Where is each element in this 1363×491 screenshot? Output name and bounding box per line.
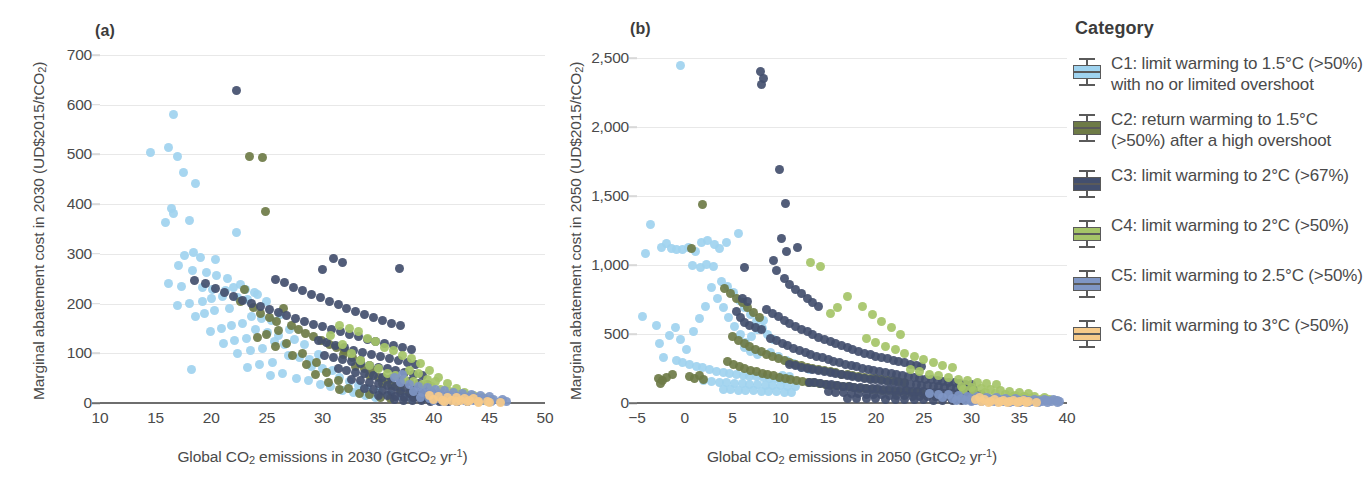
legend-title: Category [1075, 18, 1363, 39]
y-tick-label: 400 [67, 195, 92, 213]
scatter-point-c3 [247, 299, 256, 308]
scatter-point-c1 [200, 309, 209, 318]
scatter-point-c1 [217, 324, 226, 333]
gridline [637, 196, 1067, 197]
scatter-point-c1 [198, 297, 207, 306]
scatter-point-c3 [316, 293, 325, 302]
scatter-point-c3 [396, 321, 405, 330]
scatter-point-c1 [713, 294, 722, 303]
scatter-point-c3 [814, 302, 823, 311]
scatter-point-c3 [309, 320, 318, 329]
scatter-point-c3 [891, 395, 900, 404]
scatter-point-c3 [367, 350, 376, 359]
x-tick-label: 15 [147, 409, 164, 427]
legend-item-c2[interactable]: C2: return warming to 1.5°C (>50%) after… [1072, 109, 1363, 151]
scatter-point-c2 [335, 385, 344, 394]
scatter-point-c3 [282, 311, 291, 320]
scatter-point-c1 [225, 304, 234, 313]
scatter-point-c4 [929, 358, 938, 367]
scatter-point-c3 [399, 396, 408, 405]
scatter-point-c6 [1032, 398, 1041, 407]
scatter-point-c1 [169, 110, 178, 119]
y-tick-label: 1,500 [591, 187, 629, 205]
scatter-point-c2 [322, 368, 331, 377]
gridline [100, 254, 545, 255]
scatter-point-c6 [994, 398, 1003, 407]
x-tick-label: 45 [481, 409, 498, 427]
scatter-point-c3 [238, 296, 247, 305]
legend-item-c6[interactable]: C6: limit warming to 3°C (>50%) [1072, 315, 1363, 351]
scatter-point-c1 [174, 261, 183, 270]
scatter-point-c3 [862, 394, 871, 403]
y-tick-label: 2,500 [591, 49, 629, 67]
scatter-point-c4 [374, 364, 383, 373]
legend-item-c5[interactable]: C5: limit warming to 2.5°C (>50%) [1072, 265, 1363, 301]
scatter-point-c1 [695, 314, 704, 323]
legend-item-label: C1: limit warming to 1.5°C (>50%) with n… [1111, 53, 1363, 95]
y-tick-mark [629, 126, 637, 128]
panel-a-y-axis-label: Marginal abatement cost in 2030 (UD$2015… [30, 62, 48, 400]
x-tick-label: 30 [314, 409, 331, 427]
scatter-point-c5 [398, 370, 407, 379]
x-tick-label: 10 [772, 409, 789, 427]
x-tick-label: 35 [370, 409, 387, 427]
scatter-point-c4 [887, 323, 896, 332]
scatter-point-c3 [881, 395, 890, 404]
scatter-point-c2 [311, 370, 320, 379]
scatter-point-c3 [274, 308, 283, 317]
scatter-point-c2 [274, 326, 283, 335]
panel-a: (a) 0100200300400500600700 1015202530354… [0, 0, 545, 491]
scatter-point-c1 [709, 262, 718, 271]
y-tick-mark [629, 333, 637, 335]
scatter-point-c3 [265, 305, 274, 314]
panel-b-label: (b) [630, 20, 651, 38]
y-tick-label: 500 [604, 325, 629, 343]
scatter-point-c4 [363, 334, 372, 343]
y-tick-mark [92, 154, 100, 156]
x-tick-label: −5 [628, 409, 645, 427]
scatter-point-c3 [793, 243, 802, 252]
scatter-point-c2 [324, 378, 333, 387]
scatter-point-c3 [318, 265, 327, 274]
scatter-point-c4 [414, 369, 423, 378]
legend-boxplot-icon [1072, 267, 1102, 301]
scatter-point-c2 [298, 349, 307, 358]
scatter-point-c6 [463, 397, 472, 406]
figure-container: (a) 0100200300400500600700 1015202530354… [0, 0, 1363, 491]
scatter-point-c4 [910, 352, 919, 361]
x-tick-label: 5 [728, 409, 736, 427]
scatter-point-c3 [351, 307, 360, 316]
scatter-point-c2 [261, 207, 270, 216]
scatter-point-c4 [380, 343, 389, 352]
legend-item-c4[interactable]: C4: limit warming to 2°C (>50%) [1072, 215, 1363, 251]
scatter-point-c1 [232, 228, 241, 237]
scatter-point-c3 [385, 354, 394, 363]
legend-item-c1[interactable]: C1: limit warming to 1.5°C (>50%) with n… [1072, 53, 1363, 95]
scatter-point-c2 [262, 330, 271, 339]
legend-boxplot-icon [1072, 55, 1102, 89]
legend-item-c3[interactable]: C3: limit warming to 2°C (>67%) [1072, 165, 1363, 201]
scatter-point-c1 [787, 388, 796, 397]
scatter-point-c4 [843, 292, 852, 301]
scatter-point-c3 [338, 258, 347, 267]
gridline [100, 154, 545, 155]
scatter-point-c1 [188, 266, 197, 275]
scatter-point-c1 [191, 179, 200, 188]
y-tick-mark [92, 303, 100, 305]
legend-boxplot-icon [1072, 111, 1102, 145]
y-tick-mark [92, 402, 100, 404]
x-tick-label: 15 [820, 409, 837, 427]
scatter-point-c1 [227, 321, 236, 330]
gridline [100, 304, 545, 305]
x-tick-label: 20 [203, 409, 220, 427]
scatter-point-c4 [862, 334, 871, 343]
legend-item-label: C6: limit warming to 3°C (>50%) [1111, 315, 1349, 336]
legend-item-label: C4: limit warming to 2°C (>50%) [1111, 215, 1349, 236]
scatter-point-c5 [416, 393, 425, 402]
scatter-point-c1 [164, 143, 173, 152]
y-tick-mark [629, 195, 637, 197]
scatter-point-c3 [369, 313, 378, 322]
scatter-point-c4 [858, 302, 867, 311]
legend: Category C1: limit warming to 1.5°C (>50… [1072, 12, 1363, 482]
scatter-point-c3 [740, 263, 749, 272]
